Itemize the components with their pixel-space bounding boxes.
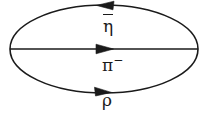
rho-glyph: ρ [102,90,112,110]
eta-glyph: η [103,14,113,35]
overbar-mark [103,14,113,15]
pi-charge-superscript: − [113,53,123,67]
label-pi-minus: π− [102,54,123,74]
pi-glyph: π [102,55,113,75]
label-eta-bar: η [103,14,113,35]
arrowhead-right-pi-minus [96,44,114,54]
eta-bar-wrapper: η [103,14,113,35]
particle-loop-diagram: η π− ρ [0,0,208,115]
label-rho: ρ [102,92,112,109]
arrowhead-left-eta-bar [97,1,115,10]
